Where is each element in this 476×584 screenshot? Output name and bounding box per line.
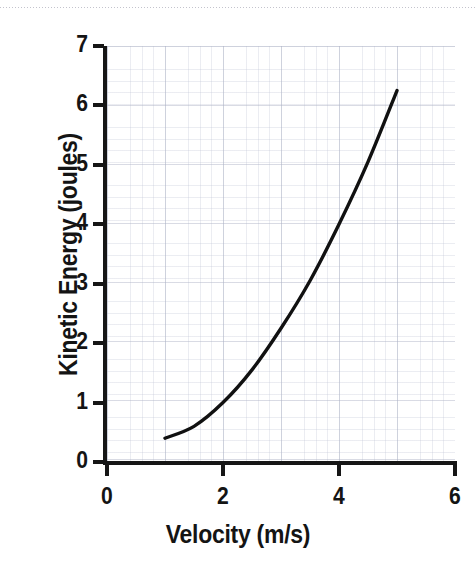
x-tick-label-6: 6: [437, 484, 472, 508]
y-tick-0: [93, 460, 104, 464]
x-tick-label-0: 0: [89, 484, 124, 508]
y-tick-6: [93, 103, 104, 107]
plot-area: [107, 46, 455, 463]
x-axis-line: [103, 461, 457, 465]
x-tick-label-4: 4: [321, 484, 356, 508]
kinetic-energy-curve: [165, 91, 397, 439]
y-tick-7: [93, 44, 104, 48]
y-tick-label-7: 7: [65, 32, 88, 56]
x-axis-title: Velocity (m/s): [19, 520, 457, 549]
x-tick-6: [453, 464, 457, 476]
kinetic-energy-velocity-chart: 01234567 0246 Kinetic Energy (joules) Ve…: [0, 0, 476, 584]
y-tick-1: [93, 401, 104, 405]
y-axis-title: Kinetic Energy (joules): [54, 61, 83, 447]
y-tick-2: [93, 341, 104, 345]
x-tick-0: [105, 464, 109, 476]
data-curve-svg: [107, 46, 455, 463]
x-tick-2: [221, 464, 225, 476]
y-tick-4: [93, 222, 104, 226]
x-tick-label-2: 2: [205, 484, 240, 508]
y-tick-3: [93, 282, 104, 286]
y-tick-5: [93, 163, 104, 167]
y-tick-label-0: 0: [65, 448, 88, 472]
x-tick-4: [337, 464, 341, 476]
